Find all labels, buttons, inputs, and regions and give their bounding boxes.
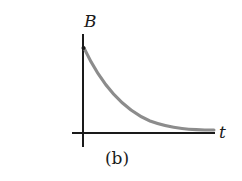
y-axis-label: B [83,11,97,31]
x-axis-label: t [219,122,226,142]
decay-curve [84,48,214,130]
figure-caption: (b) [105,148,129,168]
decay-diagram: B t (b) [0,0,242,181]
initial-value-point [82,46,86,50]
